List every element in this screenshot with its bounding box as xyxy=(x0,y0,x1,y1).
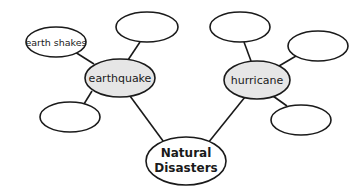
detail-node-earthquake-blank-1[interactable] xyxy=(116,12,178,42)
connector-center-hurricane xyxy=(208,97,245,143)
connector-hurricane-detail-2 xyxy=(279,56,296,66)
detail-node-hurricane-blank-3[interactable] xyxy=(271,105,331,135)
concept-map: earth shakes earthquake hurricane Natura… xyxy=(0,0,364,193)
detail-node-hurricane-blank-1[interactable] xyxy=(210,12,270,42)
connector-earthquake-earthshakes xyxy=(75,52,94,64)
center-label-line2: Disasters xyxy=(154,161,217,175)
center-label-line1: Natural xyxy=(161,146,212,160)
connector-earthquake-detail-2 xyxy=(128,42,140,60)
category-label: hurricane xyxy=(231,74,284,87)
detail-label: earth shakes xyxy=(25,37,86,48)
center-node-natural-disasters[interactable]: Natural Disasters xyxy=(146,137,226,185)
connector-hurricane-detail-3 xyxy=(273,96,287,106)
connector-earthquake-detail-3 xyxy=(84,91,92,104)
category-node-hurricane[interactable]: hurricane xyxy=(224,61,290,99)
category-node-earthquake[interactable]: earthquake xyxy=(85,59,155,97)
detail-node-earth-shakes[interactable]: earth shakes xyxy=(25,27,86,57)
connector-hurricane-detail-1 xyxy=(244,42,251,61)
connector-center-earthquake xyxy=(130,96,166,145)
category-label: earthquake xyxy=(89,72,152,85)
detail-node-earthquake-blank-2[interactable] xyxy=(40,102,100,132)
detail-node-hurricane-blank-2[interactable] xyxy=(288,31,348,61)
